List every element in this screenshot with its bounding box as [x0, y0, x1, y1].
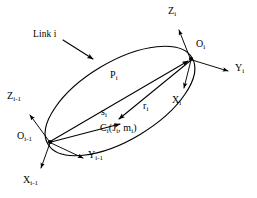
- z-axis-i-label: Zi: [168, 6, 176, 18]
- vector-p-label: Pi: [110, 70, 118, 82]
- x-axis-i-minus-1: [41, 143, 50, 168]
- z-axis-i-minus-1-label: Zi-1: [7, 91, 21, 103]
- y-axis-i-minus-1-label: Yi-1: [88, 150, 103, 162]
- vector-r-label: ri: [143, 101, 148, 113]
- x-axis-i: [184, 60, 191, 88]
- origin-i-node: [189, 57, 193, 61]
- origin-i-minus-1-label: Oi-1: [17, 131, 32, 143]
- x-axis-i-minus-1-label: Xi-1: [23, 175, 38, 187]
- origin-i-label: Oi: [196, 39, 205, 51]
- frame-i-minus-1-axes: [30, 115, 83, 168]
- origin-i-minus-1-node: [48, 140, 52, 144]
- vector-r-arrow: [119, 61, 190, 119]
- y-axis-i: [192, 60, 228, 71]
- vector-s-label: si: [101, 107, 107, 119]
- link-label: Link i: [33, 30, 57, 40]
- link-label-leader-arrow: [63, 40, 93, 59]
- y-axis-i-label: Yi: [235, 63, 244, 75]
- link-kinematics-diagram: Link i Pi si ri Zi Oi Yi Xi Zi-1 Oi-1 Yi…: [0, 0, 257, 198]
- center-of-mass-label: Ci(Ji, mi): [100, 123, 137, 135]
- z-axis-i: [179, 30, 190, 58]
- x-axis-i-label: Xi: [172, 95, 181, 107]
